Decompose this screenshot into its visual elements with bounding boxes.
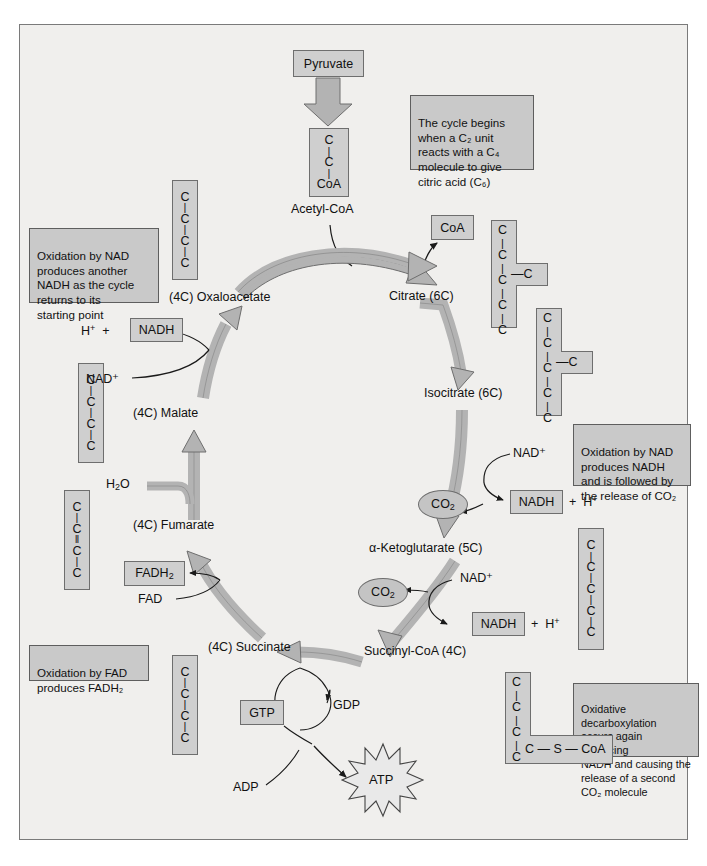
nadh-box-malate-step: NADH (130, 318, 183, 342)
structure-succinate: C| C| C| C (172, 655, 198, 755)
nad-plus-malate-step: NAD⁺ (86, 371, 119, 386)
citrate-chain-text: C|C|C|C|C (498, 224, 507, 337)
note-oxidation-nad-co2: Oxidation by NAD produces NADH and is fo… (573, 424, 691, 486)
citrate-branch-text: —C (511, 268, 533, 281)
nadh-box-isocitrate-step: NADH (510, 490, 563, 514)
co2-oval-ketoglutarate-step: CO2 (358, 578, 408, 607)
label-succinyl-coa: Succinyl-CoA (4C) (364, 644, 466, 658)
nadh-box-ketoglutarate-step: NADH (472, 612, 525, 636)
note-oxidation-fad-text: Oxidation by FAD produces FADH₂ (37, 666, 127, 694)
label-succinate: (4C) Succinate (208, 640, 291, 654)
nadh-label: NADH (481, 617, 516, 631)
acetyl-coa-label: Acetyl-CoA (291, 202, 354, 216)
isocitrate-chain-text: C|C|C|C|C (543, 312, 552, 425)
label-oxaloacetate: (4C) Oxaloacetate (169, 290, 270, 304)
nadh-label: NADH (519, 495, 554, 509)
isocitrate-branch-text: —C (556, 356, 578, 369)
structure-succinyl-coa: C|C|C|C C — S — CoA (505, 672, 615, 764)
h-plus-isocitrate-step: + H+ (569, 494, 598, 509)
c-atom: C (586, 626, 595, 639)
fadh2-label: FADH2 (135, 566, 173, 581)
fad-label: FAD (138, 592, 162, 606)
label-citrate: Citrate (6C) (389, 289, 454, 303)
nadh-label: NADH (139, 323, 174, 337)
nad-plus-isocitrate-step: NAD⁺ (513, 445, 546, 460)
gtp-box: GTP (240, 700, 284, 725)
acetyl-coa-group: CoA (317, 178, 341, 191)
gdp-label: GDP (333, 698, 360, 712)
water-label: H2O (106, 477, 130, 492)
gtp-label: GTP (249, 706, 275, 720)
c-atom: C (180, 732, 189, 745)
pyruvate-box: Pyruvate (293, 50, 364, 77)
diagram-page: Pyruvate C | C | CoA Acetyl-CoA CoA The … (0, 0, 707, 866)
note-oxidation-nad-another: Oxidation by NAD produces another NADH a… (29, 228, 159, 303)
structure-fumarate: C| C‖ C| C (64, 490, 90, 590)
structure-ketoglutarate: C| C| C| C| C (578, 528, 604, 650)
succinyl-chain-text: C|C|C|C (512, 676, 521, 764)
co2-label: CO2 (431, 497, 455, 512)
structure-oxaloacetate: C| C| C| C (172, 180, 198, 280)
co2-label: CO2 (371, 585, 395, 600)
note-oxidation-fad: Oxidation by FAD produces FADH₂ (29, 645, 149, 681)
label-isocitrate: Isocitrate (6C) (424, 386, 503, 400)
label-fumarate: (4C) Fumarate (133, 518, 214, 532)
c-atom: C (86, 440, 95, 453)
structure-isocitrate: C|C|C|C|C —C (536, 308, 610, 416)
label-malate: (4C) Malate (133, 406, 198, 420)
h-plus-malate-step: H+ + (81, 323, 110, 338)
c-atom: C (180, 257, 189, 270)
acetyl-coa-structure-box: C | C | CoA (309, 128, 349, 197)
atp-label: ATP (369, 772, 393, 787)
co2-oval-isocitrate-step: CO2 (418, 490, 468, 519)
c-atom: C (72, 567, 81, 580)
succinyl-coa-tail-text: C — S — CoA (525, 743, 606, 756)
nad-plus-ketoglutarate-step: NAD⁺ (460, 570, 493, 585)
pyruvate-label: Pyruvate (304, 57, 353, 71)
coa-label: CoA (440, 221, 464, 235)
adp-label: ADP (233, 780, 259, 794)
label-ketoglutarate: α-Ketoglutarate (5C) (369, 541, 483, 555)
coa-box: CoA (431, 215, 474, 240)
fadh2-box: FADH2 (124, 561, 185, 586)
note-cycle-begins: The cycle begins when a C₂ unit reacts w… (410, 95, 534, 170)
h-plus-ketoglutarate-step: + H+ (531, 616, 560, 631)
